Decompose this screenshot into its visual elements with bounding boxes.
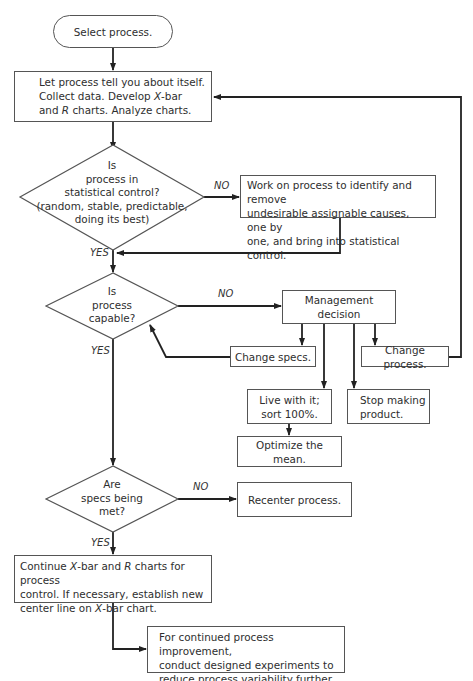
work-on-process-box: Work on process to identify and remove u…	[240, 175, 436, 218]
collect-data-box: Let process tell you about itself. Colle…	[14, 71, 212, 122]
yes-label-control: YES	[90, 247, 109, 258]
yes-label-capable: YES	[91, 345, 110, 356]
no-label-control: NO	[214, 180, 229, 191]
change-process-box: Change process.	[361, 346, 449, 367]
collect-line-3: and R charts. Analyze charts.	[39, 103, 207, 117]
continue-line-3: center line on X-bar chart.	[20, 601, 209, 615]
continue-line-1: Continue X-bar and R charts for process	[20, 559, 209, 587]
management-decision-box: Management decision	[282, 290, 396, 324]
no-label-specs: NO	[193, 481, 208, 492]
start-terminal: Select process.	[53, 15, 173, 48]
decision-statistical-control: Is process in statistical control? (rand…	[20, 159, 204, 227]
collect-line-1: Let process tell you about itself.	[39, 75, 207, 89]
stop-making-product-box: Stop making product.	[347, 389, 430, 424]
decision-specs-met: Are specs being met?	[46, 478, 178, 519]
continue-charts-box: Continue X-bar and R charts for process …	[14, 555, 212, 603]
start-label: Select process.	[74, 25, 153, 39]
decision-process-capable: Is process capable?	[46, 285, 178, 326]
yes-label-specs: YES	[91, 537, 110, 548]
optimize-mean-box: Optimize the mean.	[237, 436, 342, 467]
no-label-capable: NO	[218, 288, 233, 299]
change-specs-box: Change specs.	[230, 346, 316, 367]
continue-line-2: control. If necessary, establish new	[20, 587, 209, 601]
live-with-it-box: Live with it; sort 100%.	[247, 389, 332, 424]
process-improvement-box: For continued process improvement, condu…	[147, 626, 345, 673]
collect-line-2: Collect data. Develop X-bar	[39, 89, 207, 103]
recenter-process-box: Recenter process.	[237, 482, 352, 517]
